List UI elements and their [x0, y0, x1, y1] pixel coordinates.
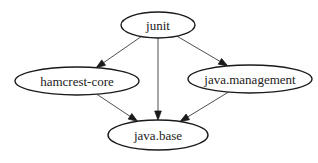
edge-hamcrest-core-to-java-base — [97, 94, 138, 121]
dependency-graph: junithamcrest-corejava.managementjava.ba… — [0, 0, 318, 163]
edge-line — [104, 37, 142, 63]
edge-line — [97, 94, 130, 116]
edge-junit-to-java-management — [177, 36, 228, 66]
node-junit: junit — [121, 12, 195, 38]
node-label: java.management — [203, 72, 296, 87]
edge-java-management-to-java-base — [180, 92, 228, 121]
arrowhead-icon — [128, 114, 137, 122]
arrowhead-icon — [218, 59, 227, 66]
edge-line — [188, 92, 229, 117]
arrowhead-icon — [180, 114, 189, 122]
node-hamcrest-core: hamcrest-core — [15, 67, 139, 95]
edge-junit-to-hamcrest-core — [96, 37, 141, 68]
node-label: junit — [145, 18, 170, 33]
node-label: java.base — [133, 128, 182, 143]
node-label: hamcrest-core — [40, 74, 114, 89]
nodes: junithamcrest-corejava.managementjava.ba… — [15, 12, 312, 150]
arrowhead-icon — [96, 60, 105, 68]
edge-junit-to-java-base — [155, 38, 162, 120]
arrowhead-icon — [155, 111, 162, 120]
edge-line — [177, 36, 220, 61]
node-java-base: java.base — [108, 120, 208, 150]
node-java-management: java.management — [188, 65, 312, 93]
